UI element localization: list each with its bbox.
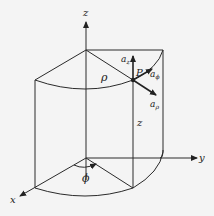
- point-p-label: P: [135, 67, 143, 78]
- z-axis-label: z: [82, 7, 89, 18]
- x-axis: [20, 158, 86, 196]
- a-rho-label: aρ: [150, 99, 159, 111]
- phi-label: ϕ: [82, 172, 90, 185]
- x-axis-label: x: [10, 194, 16, 205]
- top-arc: [35, 50, 163, 89]
- rho-line-bottom: [86, 158, 133, 188]
- bottom-arc: [35, 152, 163, 196]
- a-z-label: az: [121, 54, 130, 65]
- cylindrical-coordinates-diagram: z y x ρ z ϕ P az aϕ aρ: [0, 0, 214, 216]
- a-rho-vector: [133, 80, 156, 95]
- y-axis-label: y: [198, 152, 205, 163]
- a-phi-label: aϕ: [150, 69, 159, 81]
- phi-arc: [74, 164, 96, 167]
- z-height-label: z: [136, 117, 143, 128]
- top-edge-left: [35, 50, 86, 80]
- rho-label: ρ: [100, 71, 108, 84]
- point-p: [131, 78, 135, 82]
